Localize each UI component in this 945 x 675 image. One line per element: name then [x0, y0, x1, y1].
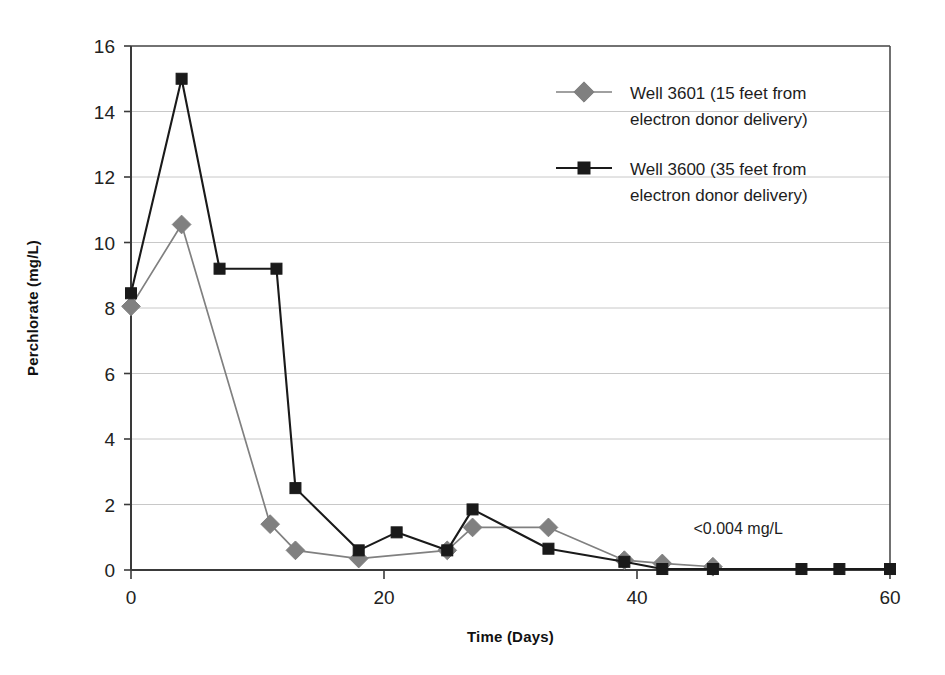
y-tick-label-10: 10 [94, 233, 115, 254]
chart-annotations: <0.004 mg/L [693, 520, 783, 537]
data-marker-square-2-4 [290, 483, 301, 494]
y-tick-label-14: 14 [94, 102, 116, 123]
x-tick-label-60: 60 [879, 587, 900, 608]
data-marker-square-2-7 [442, 545, 453, 556]
data-marker-square-2-3 [271, 263, 282, 274]
x-axis-title: Time (Days) [467, 628, 554, 645]
data-marker-square-2-2 [214, 263, 225, 274]
y-tick-label-8: 8 [104, 298, 115, 319]
data-marker-square-2-5 [353, 545, 364, 556]
data-marker-square-2-11 [657, 564, 668, 575]
data-marker-square-2-10 [619, 556, 630, 567]
data-marker-square-2-9 [543, 543, 554, 554]
data-marker-square-2-12 [707, 564, 718, 575]
legend-label-line1-2: Well 3600 (35 feet from [630, 160, 806, 179]
y-axis-title: Perchlorate (mg/L) [24, 240, 41, 376]
data-marker-square-2-14 [834, 564, 845, 575]
data-marker-square-2-1 [176, 73, 187, 84]
data-marker-square-2-15 [885, 564, 896, 575]
annotation-1: <0.004 mg/L [693, 520, 783, 537]
data-marker-square-2-13 [796, 564, 807, 575]
x-tick-label-0: 0 [126, 587, 137, 608]
y-tick-label-6: 6 [104, 364, 115, 385]
data-marker-square-2-0 [126, 288, 137, 299]
perchlorate-time-series-chart: 0204060 0246810121416 Well 3601 (15 feet… [0, 0, 945, 675]
y-tick-label-16: 16 [94, 36, 115, 57]
legend-label-line1-1: Well 3601 (15 feet from [630, 84, 806, 103]
y-tick-label-2: 2 [104, 495, 115, 516]
x-tick-label-20: 20 [373, 587, 394, 608]
y-tick-label-4: 4 [104, 429, 115, 450]
legend-label-line2-1: electron donor delivery) [630, 110, 808, 129]
chart-figure: 0204060 0246810121416 Well 3601 (15 feet… [0, 0, 945, 675]
data-marker-square-2-8 [467, 504, 478, 515]
x-tick-label-40: 40 [626, 587, 647, 608]
y-tick-label-12: 12 [94, 167, 115, 188]
data-marker-square-2-6 [391, 527, 402, 538]
data-marker-square-legend-2 [578, 162, 590, 174]
legend-label-line2-2: electron donor delivery) [630, 186, 808, 205]
y-tick-label-0: 0 [104, 560, 115, 581]
